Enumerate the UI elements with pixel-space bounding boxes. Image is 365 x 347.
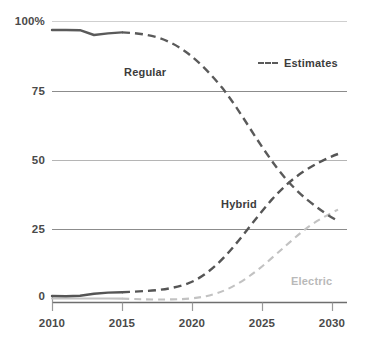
series-hybrid-dashed — [122, 154, 338, 292]
gridlines — [52, 22, 347, 230]
y-axis-tick-label-25: 25 — [0, 223, 45, 235]
series-label-electric: Electric — [291, 275, 332, 287]
x-axis-tick-label-2020: 2020 — [162, 317, 222, 329]
series-label-regular: Regular — [124, 66, 166, 78]
x-axis-tick-label-2030: 2030 — [302, 317, 362, 329]
chart-container: 100% 75 50 25 0 2010 2015 2020 2025 2030… — [0, 0, 365, 347]
series-regular-solid — [52, 30, 122, 35]
x-axis-tick-label-2010: 2010 — [22, 317, 82, 329]
y-axis-tick-label-50: 50 — [0, 154, 45, 166]
legend-label-estimates: Estimates — [284, 57, 338, 69]
legend-dashed-line-icon — [258, 62, 278, 64]
x-axis — [52, 303, 347, 312]
chart-plot-area — [0, 0, 365, 347]
y-axis-tick-label-75: 75 — [0, 85, 45, 97]
series-label-hybrid: Hybrid — [221, 198, 257, 210]
series-hybrid-solid — [52, 292, 122, 296]
legend: Estimates — [258, 57, 338, 69]
x-axis-tick-label-2015: 2015 — [92, 317, 152, 329]
x-axis-tick-label-2025: 2025 — [232, 317, 292, 329]
y-axis-tick-label-0: 0 — [0, 290, 45, 302]
y-axis-tick-label-100: 100% — [0, 15, 45, 27]
